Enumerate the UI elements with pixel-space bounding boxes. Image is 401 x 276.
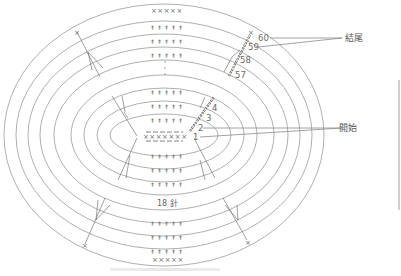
double-crochet-stitch: ↟ (164, 248, 169, 255)
double-crochet-stitch: ↟ (157, 52, 162, 59)
outer-sc-mark-tl: × (74, 29, 80, 37)
double-crochet-stitch: ↟ (164, 234, 169, 241)
double-crochet-stitch: ↟ (178, 167, 183, 174)
double-crochet-stitch: ↟ (150, 234, 155, 241)
double-crochet-stitch: ↟ (171, 248, 176, 255)
round-number-60: 60 (258, 33, 269, 43)
double-crochet-stitch: ↟ (171, 181, 176, 188)
double-crochet-stitch: ↟ (171, 234, 176, 241)
page-edge-divider (398, 80, 400, 210)
double-crochet-stitch: ↟ (171, 117, 176, 124)
double-crochet-stitch: ↟ (164, 24, 169, 31)
double-crochet-stitch: ↟ (171, 153, 176, 160)
double-crochet-stitch: ↟ (157, 181, 162, 188)
double-crochet-stitch: ↟ (150, 52, 155, 59)
double-crochet-stitch: ↟ (178, 117, 183, 124)
crochet-oval-chart: ××××××× ××××× ××××× ↟↟↟↟↟↟↟↟↟↟↟↟↟↟↟↟↟↟↟↟… (0, 0, 401, 276)
double-crochet-stitch: ↟ (157, 153, 162, 160)
double-crochet-stitch: ↟ (150, 181, 155, 188)
double-crochet-stitch: ↟ (150, 117, 155, 124)
double-crochet-stitch: ↟ (178, 89, 183, 96)
double-crochet-stitch: ↟ (157, 24, 162, 31)
double-crochet-stitch: ↟ (178, 103, 183, 110)
double-crochet-stitch: ↟ (171, 167, 176, 174)
double-crochet-stitch: ↟ (171, 220, 176, 227)
double-crochet-stitch: ↟ (178, 24, 183, 31)
outer-sc-mark-tr: × (248, 29, 254, 37)
double-crochet-stitch: ↟ (150, 220, 155, 227)
double-crochet-stitch: ↟ (178, 52, 183, 59)
round-number-58: 58 (240, 55, 251, 65)
double-crochet-stitch: ↟ (157, 103, 162, 110)
double-crochet-stitch: ↟ (157, 38, 162, 45)
callout-start: 開始 (339, 122, 357, 133)
double-crochet-stitch: ↟ (171, 103, 176, 110)
double-crochet-stitch: ↟ (178, 153, 183, 160)
double-crochet-stitch: ↟ (178, 234, 183, 241)
double-crochet-stitch: ↟ (178, 220, 183, 227)
center-stitch-row: ××××××× (143, 133, 188, 141)
double-crochet-stitch: ↟ (171, 38, 176, 45)
double-crochet-stitch: ↟ (164, 167, 169, 174)
double-crochet-stitch: ↟ (157, 167, 162, 174)
double-crochet-stitch: ↟ (150, 103, 155, 110)
double-crochet-stitch: ↟ (164, 89, 169, 96)
double-crochet-stitch: ↟ (157, 117, 162, 124)
double-crochet-stitch: ↟ (171, 24, 176, 31)
double-crochet-stitch: ↟ (164, 52, 169, 59)
top-end-stitches: ××××× (151, 7, 183, 15)
round-number-3: 3 (206, 113, 211, 123)
round-number-2: 2 (198, 123, 203, 133)
stitch-count-label: 18 針 (157, 198, 178, 208)
outer-sc-mark-bl: × (82, 242, 88, 250)
double-crochet-stitch: ↟ (157, 234, 162, 241)
double-crochet-stitch: ↟ (157, 248, 162, 255)
round-number-1: 1 (193, 132, 198, 142)
ellipsis-dots (164, 61, 166, 75)
double-crochet-stitch: ↟ (150, 153, 155, 160)
callout-end: 結尾 (345, 32, 363, 43)
double-crochet-stitch: ↟ (171, 52, 176, 59)
double-crochet-stitch: ↟ (178, 181, 183, 188)
double-crochet-stitch: ↟ (157, 220, 162, 227)
double-crochet-stitch: ↟ (171, 89, 176, 96)
double-crochet-stitch: ↟ (164, 38, 169, 45)
double-crochet-stitch: ↟ (164, 181, 169, 188)
round-number-4: 4 (212, 103, 217, 113)
double-crochet-stitch: ↟ (178, 248, 183, 255)
start-leader-1 (200, 128, 342, 137)
double-crochet-stitch: ↟ (150, 24, 155, 31)
double-crochet-stitch: ↟ (178, 38, 183, 45)
double-crochet-stitch: ↟ (164, 103, 169, 110)
double-crochet-stitch: ↟ (150, 89, 155, 96)
end-leader-59 (258, 38, 342, 47)
double-crochet-stitch: ↟ (150, 167, 155, 174)
double-crochet-stitch: ↟ (150, 248, 155, 255)
double-crochet-stitch: ↟ (164, 220, 169, 227)
round-number-57: 57 (235, 70, 246, 80)
double-crochet-stitch: ↟ (150, 38, 155, 45)
bottom-end-stitches: ××××× (152, 256, 184, 264)
double-crochet-stitch: ↟ (164, 153, 169, 160)
faint-caption-line (110, 268, 220, 271)
outer-sc-mark-br: × (245, 239, 251, 247)
double-crochet-stitch: ↟ (164, 117, 169, 124)
round-number-59: 59 (248, 42, 259, 52)
double-crochet-stitch: ↟ (157, 89, 162, 96)
